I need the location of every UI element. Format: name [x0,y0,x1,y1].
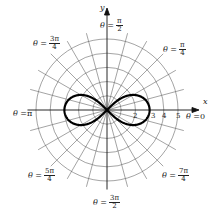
angle-label-5pi-4: θ = 5π4 [28,168,55,183]
radial-tick-4: 4 [162,112,166,120]
angle-label-7pi-4: θ = 7π4 [162,168,189,183]
angle-label-3pi-4: θ = 3π4 [33,36,60,51]
angle-label-0: θ = 0 [186,113,205,121]
angle-label-pi-2: θ = π2 [100,18,123,33]
y-axis-label: y [100,3,105,12]
angle-label-pi: θ = π [13,110,32,118]
x-axis-label: x [203,97,208,106]
radial-tick-2: 2 [133,112,137,120]
radial-tick-5: 5 [176,112,180,120]
angle-label-3pi-2: θ = 3π2 [93,195,120,210]
angle-label-pi-4: θ = π4 [163,42,186,57]
radial-tick-3: 3 [151,112,155,120]
